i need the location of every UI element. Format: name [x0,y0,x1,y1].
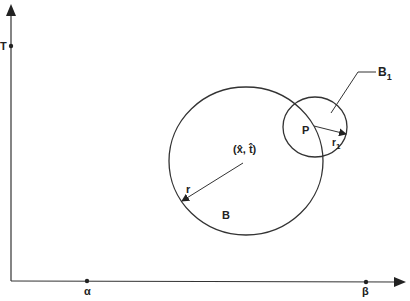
beta-tick [364,280,368,284]
circle-b1: P r1 B1 [283,65,392,157]
radius-r1-label: r1 [332,137,341,151]
circle-b1-label: B1 [378,65,392,82]
alpha-label: α [84,285,91,297]
circle-b-label: B [222,209,230,221]
circle-b-center-label: (x̂, t̂) [233,143,257,155]
y-axis-label: T [0,40,7,52]
y-axis: T [0,4,16,281]
t-tick [9,44,13,48]
x-axis: α β [11,277,406,297]
diagram: T α β (x̂, t̂) r B P r1 B1 [0,0,410,301]
radius-r1-arrow [314,126,346,134]
point-p-label: P [302,124,309,136]
alpha-tick [85,279,89,283]
radius-r-label: r [186,183,191,195]
radius-r-arrow [182,163,243,201]
x-axis-arrow-icon [394,277,406,287]
beta-label: β [362,285,369,297]
circle-b: (x̂, t̂) r B [169,87,323,235]
y-axis-arrow-icon [6,4,16,16]
b1-leader-line [331,72,376,113]
